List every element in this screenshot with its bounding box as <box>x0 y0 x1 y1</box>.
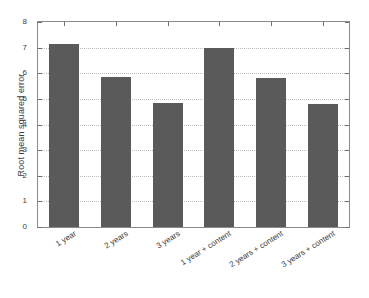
y-tick-label: 0 <box>7 222 27 231</box>
x-tick-label: 1 year + content <box>180 229 234 267</box>
y-tick-label: 8 <box>7 17 27 26</box>
chart-figure: Root mean squared error 1 year2 years3 y… <box>0 0 369 298</box>
y-tick-mark <box>38 227 42 228</box>
x-axis-labels: 1 year2 years3 years1 year + content2 ye… <box>37 229 350 298</box>
y-tick-label: 1 <box>7 196 27 205</box>
x-tick-label: 3 years + content <box>280 229 337 269</box>
y-tick-label: 2 <box>7 170 27 179</box>
bar <box>49 44 79 227</box>
y-tick-mark <box>345 227 349 228</box>
x-tick-label: 2 years + content <box>228 229 285 269</box>
y-tick-label: 6 <box>7 68 27 77</box>
bar <box>308 104 338 227</box>
bar <box>101 77 131 227</box>
x-tick-label: 2 years <box>103 229 130 251</box>
x-tick-label: 1 year <box>54 229 78 248</box>
y-tick-label: 4 <box>7 119 27 128</box>
y-tick-label: 7 <box>7 42 27 51</box>
plot-area <box>37 21 350 228</box>
bar <box>256 78 286 227</box>
bar <box>153 103 183 227</box>
bar <box>204 48 234 227</box>
x-tick-label: 3 years <box>154 229 181 251</box>
y-tick-label: 3 <box>7 145 27 154</box>
y-tick-label: 5 <box>7 93 27 102</box>
bar-series <box>38 22 349 227</box>
